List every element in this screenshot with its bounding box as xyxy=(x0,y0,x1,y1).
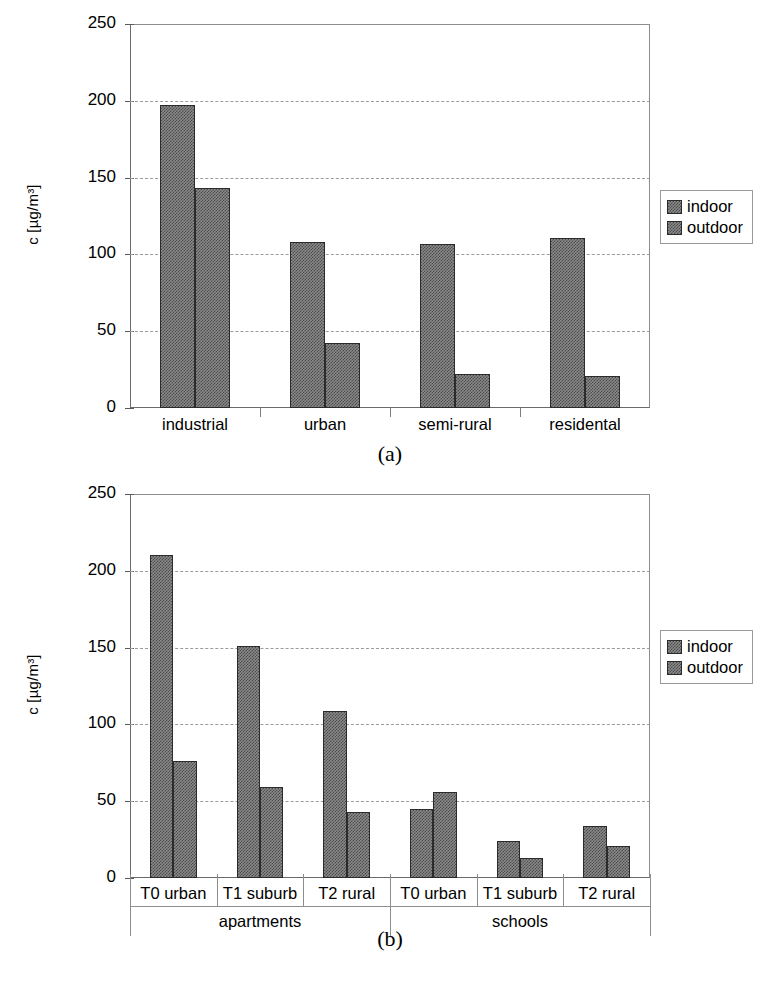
gridline xyxy=(130,178,650,179)
bar-outdoor xyxy=(585,376,620,408)
y-axis-label-b: c [µg/m³] xyxy=(24,605,41,765)
group-axis-separator xyxy=(217,874,218,906)
figure-caption-b: (b) xyxy=(0,926,780,952)
group-axis-separator xyxy=(390,874,391,906)
bar-indoor xyxy=(290,242,325,408)
bar-outdoor xyxy=(325,343,360,408)
plot-area-b xyxy=(130,494,650,878)
gridline xyxy=(130,648,650,649)
x-category-label: industrial xyxy=(130,415,260,434)
x-category-label: T2 rural xyxy=(563,884,650,903)
x-category-label: T1 suburb xyxy=(477,884,564,903)
y-tick-label: 150 xyxy=(40,167,116,187)
legend-item-indoor[interactable]: indoor xyxy=(667,196,743,217)
bar-indoor xyxy=(237,646,260,878)
legend-a[interactable]: indoor outdoor xyxy=(660,190,753,244)
y-axis-label-a: c [µg/m³] xyxy=(24,135,41,295)
bar-outdoor xyxy=(195,188,230,408)
bar-indoor xyxy=(420,244,455,408)
gridline xyxy=(130,101,650,102)
bar-outdoor xyxy=(347,812,370,878)
x-category-label: urban xyxy=(260,415,390,434)
legend-b[interactable]: indoor outdoor xyxy=(660,630,753,684)
y-tick-label: 250 xyxy=(40,483,116,503)
legend-label-indoor: indoor xyxy=(687,637,733,656)
y-tick-label: 200 xyxy=(40,90,116,110)
y-tick-label: 50 xyxy=(40,320,116,340)
y-tick-label: 0 xyxy=(40,397,116,417)
gridline xyxy=(130,724,650,725)
y-tick-label: 200 xyxy=(40,560,116,580)
bar-indoor xyxy=(323,711,346,878)
x-category-label: residental xyxy=(520,415,650,434)
legend-item-outdoor[interactable]: outdoor xyxy=(667,217,743,238)
gridline xyxy=(130,571,650,572)
bar-outdoor xyxy=(260,787,283,878)
bar-indoor xyxy=(160,105,195,408)
x-category-label: T1 suburb xyxy=(217,884,304,903)
figure-caption-a: (a) xyxy=(0,441,780,467)
group-axis-separator xyxy=(303,874,304,906)
y-tick-label: 0 xyxy=(40,867,116,887)
y-tick-label: 150 xyxy=(40,637,116,657)
outdoor-swatch-icon xyxy=(667,661,682,675)
group-axis-separator xyxy=(477,874,478,906)
legend-item-indoor[interactable]: indoor xyxy=(667,636,743,657)
outdoor-swatch-icon xyxy=(667,221,682,235)
y-tick-label: 250 xyxy=(40,13,116,33)
legend-label-outdoor: outdoor xyxy=(687,658,743,677)
group-axis-separator xyxy=(130,874,131,906)
gridline xyxy=(130,801,650,802)
bar-outdoor xyxy=(455,374,490,408)
x-category-label: T2 rural xyxy=(303,884,390,903)
figure-b: c [µg/m³] 050100150200250 T0 urbanT1 sub… xyxy=(0,470,780,983)
bar-indoor xyxy=(497,841,520,878)
y-tick-mark xyxy=(125,24,134,25)
bar-indoor xyxy=(410,809,433,878)
legend-label-outdoor: outdoor xyxy=(687,218,743,237)
bar-indoor xyxy=(150,555,173,878)
x-category-label: semi-rural xyxy=(390,415,520,434)
indoor-swatch-icon xyxy=(667,200,682,214)
y-tick-label: 100 xyxy=(40,713,116,733)
legend-item-outdoor[interactable]: outdoor xyxy=(667,657,743,678)
bar-indoor xyxy=(583,826,606,878)
x-category-label: T0 urban xyxy=(130,884,217,903)
y-tick-mark xyxy=(125,408,134,409)
bar-outdoor xyxy=(433,792,456,878)
bar-outdoor xyxy=(173,761,196,878)
indoor-swatch-icon xyxy=(667,640,682,654)
legend-label-indoor: indoor xyxy=(687,197,733,216)
x-category-label: T0 urban xyxy=(390,884,477,903)
bar-outdoor xyxy=(607,846,630,878)
y-tick-label: 100 xyxy=(40,243,116,263)
y-tick-label: 50 xyxy=(40,790,116,810)
group-axis-separator xyxy=(650,874,651,906)
bar-outdoor xyxy=(520,858,543,878)
y-tick-mark xyxy=(125,494,134,495)
group-axis-separator xyxy=(563,874,564,906)
figure-a: c [µg/m³] 050100150200250 industrialurba… xyxy=(0,0,780,470)
bar-indoor xyxy=(550,238,585,408)
